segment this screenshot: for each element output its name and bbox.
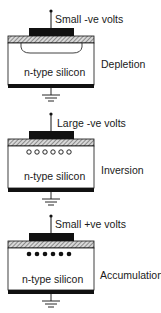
state-label: Inversion: [101, 164, 144, 176]
back-contact: [8, 188, 94, 192]
oxide-layer: [8, 139, 94, 146]
panel-accumulation: Small +ve volts n-type silicon Accumulat…: [8, 214, 161, 307]
ground-icon: [42, 88, 60, 101]
state-label: Accumulation: [100, 269, 161, 281]
mos-diagram: Small -ve volts n-type silicon Depletion…: [0, 0, 161, 313]
bias-label: Small +ve volts: [55, 218, 126, 230]
panel-depletion: Small -ve volts n-type silicon Depletion: [8, 9, 146, 101]
gate-electrode: [29, 28, 74, 36]
oxide-layer: [8, 36, 94, 43]
bias-label: Small -ve volts: [55, 13, 123, 25]
ground-icon: [42, 192, 60, 205]
back-contact: [8, 290, 94, 294]
substrate-label: n-type silicon: [24, 66, 85, 78]
ground-icon: [42, 294, 60, 307]
bias-label: Large -ve volts: [57, 117, 126, 129]
gate-electrode: [29, 131, 74, 139]
substrate-label: n-type silicon: [22, 273, 83, 285]
oxide-layer: [8, 241, 94, 248]
panel-inversion: Large -ve volts n-type silicon Inversion: [8, 112, 144, 205]
back-contact: [8, 84, 94, 88]
state-label: Depletion: [101, 58, 146, 70]
substrate-label: n-type silicon: [24, 170, 85, 182]
gate-electrode: [29, 233, 74, 241]
